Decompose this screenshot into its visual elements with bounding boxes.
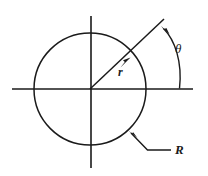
angle-label: θ — [175, 41, 182, 56]
radius-vector-label: r — [118, 65, 123, 79]
circle-radius-label: R — [174, 142, 184, 157]
circle-radius-leader-line — [131, 133, 171, 150]
diagram-canvas: r θ R — [0, 0, 208, 176]
radius-vector-ray — [90, 19, 164, 89]
angle-arc — [164, 29, 181, 89]
circle-radius-leader-arrowhead — [128, 130, 137, 138]
polar-circle-diagram: r θ R — [0, 0, 208, 176]
